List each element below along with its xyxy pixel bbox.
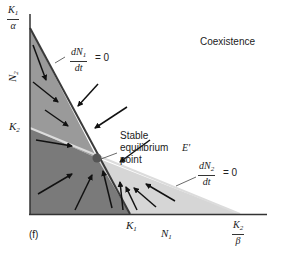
equilibrium-label-line2: equilibrium xyxy=(120,142,168,153)
region-label-coexistence: Coexistence xyxy=(200,36,255,47)
k1-alpha-label: K1 α xyxy=(7,4,19,31)
leader-e xyxy=(101,153,117,159)
isocline-n2-label: dN2 dt xyxy=(198,160,215,187)
isocline-n1-label: dN1 dt xyxy=(70,46,87,73)
equilibrium-label-line1: Stable xyxy=(120,130,148,141)
k2-beta-label: K2 β xyxy=(232,219,244,246)
x-axis-label: N1 xyxy=(161,227,172,241)
leader-n1 xyxy=(55,57,65,63)
equilibrium-point xyxy=(93,154,102,163)
leader-n2 xyxy=(176,177,196,186)
equilibrium-symbol: E' xyxy=(182,142,190,153)
k2-label: K2 xyxy=(9,120,20,134)
panel-label: (f) xyxy=(29,229,38,240)
y-axis-label: N2 xyxy=(6,71,20,82)
isocline-n2-equals: = 0 xyxy=(223,167,237,178)
k1-label: K1 xyxy=(126,219,137,233)
isocline-n1-equals: = 0 xyxy=(95,52,109,63)
equilibrium-label-line3: point xyxy=(120,154,142,165)
